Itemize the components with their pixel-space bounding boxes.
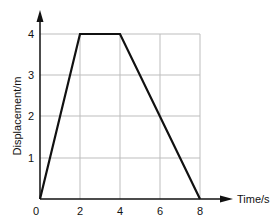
x-axis-arrow-icon [220, 196, 233, 203]
axes [37, 10, 234, 203]
y-tick-4: 4 [28, 28, 34, 40]
y-axis-label: Displacement/m [11, 77, 23, 156]
y-tick-labels: 1 2 3 4 [28, 28, 34, 164]
y-tick-1: 1 [28, 152, 34, 164]
displacement-time-chart: 0 2 4 6 8 1 2 3 4 Time/s Displacement/m [0, 0, 274, 222]
x-axis-label: Time/s [237, 193, 270, 205]
x-tick-6: 6 [157, 205, 163, 217]
grid [40, 34, 200, 199]
x-tick-2: 2 [77, 205, 83, 217]
y-axis-arrow-icon [37, 10, 44, 22]
x-tick-labels: 0 2 4 6 8 [33, 205, 203, 217]
y-tick-3: 3 [28, 69, 34, 81]
y-tick-2: 2 [28, 110, 34, 122]
x-tick-8: 8 [197, 205, 203, 217]
x-tick-4: 4 [117, 205, 123, 217]
x-tick-0: 0 [33, 205, 39, 217]
